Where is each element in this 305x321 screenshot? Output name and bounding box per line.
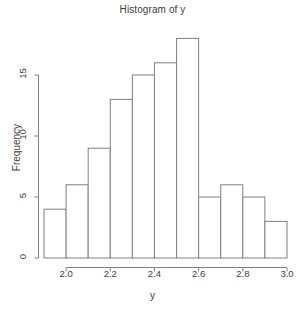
histogram-bar — [221, 185, 243, 258]
y-axis-label: Frequency — [11, 108, 22, 188]
x-tick-label: 2.4 — [139, 268, 169, 279]
histogram-bar — [132, 75, 154, 258]
histogram-bar — [66, 185, 88, 258]
x-tick-label: 2.0 — [51, 268, 81, 279]
histogram-bar — [110, 99, 132, 258]
histogram-bar — [199, 197, 221, 258]
y-tick-label: 5 — [17, 186, 28, 206]
bar-series — [44, 38, 287, 258]
histogram-bar — [44, 209, 66, 258]
histogram-bar — [88, 148, 110, 258]
histogram-bar — [243, 197, 265, 258]
histogram-bar — [154, 63, 176, 258]
y-tick-label: 10 — [17, 125, 28, 145]
histogram-bar — [177, 38, 199, 258]
y-tick-label: 0 — [17, 247, 28, 267]
x-tick-label: 2.2 — [95, 268, 125, 279]
histogram-plot: Histogram of y Frequency y 2.02.22.42.62… — [0, 0, 305, 321]
x-tick-label: 2.6 — [184, 268, 214, 279]
histogram-bar — [265, 221, 287, 258]
y-tick-label: 15 — [17, 64, 28, 84]
x-tick-label: 3.0 — [272, 268, 302, 279]
x-axis-label: y — [0, 290, 305, 301]
x-tick-label: 2.8 — [228, 268, 258, 279]
